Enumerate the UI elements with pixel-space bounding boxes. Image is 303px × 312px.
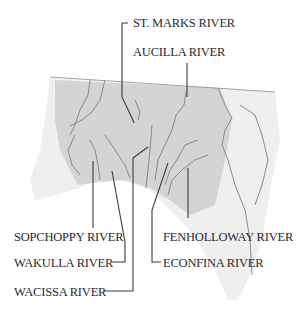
label-fenholloway-river: FENHOLLOWAY RIVER bbox=[163, 230, 293, 244]
label-wacissa-river: WACISSA RIVER bbox=[14, 285, 106, 299]
label-aucilla-river: AUCILLA RIVER bbox=[133, 45, 225, 59]
label-st-marks-river: ST. MARKS RIVER bbox=[133, 16, 235, 30]
label-econfina-river: ECONFINA RIVER bbox=[163, 256, 263, 270]
label-wakulla-river: WAKULLA RIVER bbox=[14, 256, 113, 270]
label-sopchoppy-river: SOPCHOPPY RIVER bbox=[14, 230, 123, 244]
